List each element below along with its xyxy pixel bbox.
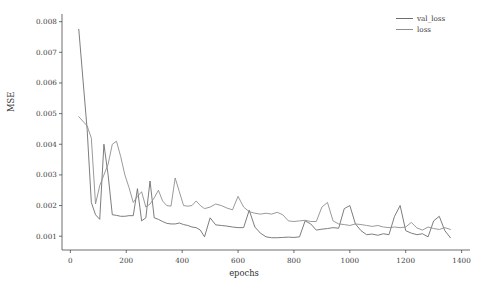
x-tick-label: 400 bbox=[162, 256, 202, 265]
x-axis-label: epochs bbox=[0, 268, 488, 278]
y-tick-label: 0.005 bbox=[10, 109, 57, 118]
legend-item-val-loss[interactable]: val_loss bbox=[396, 13, 486, 24]
legend-swatch-loss bbox=[396, 29, 413, 30]
x-tick-label: 600 bbox=[218, 256, 258, 265]
y-tick-label: 0.007 bbox=[10, 48, 57, 57]
x-tick-label: 1400 bbox=[442, 256, 482, 265]
y-tick-label: 0.006 bbox=[10, 78, 57, 87]
legend-item-loss[interactable]: loss bbox=[396, 24, 486, 35]
x-tick-label: 1000 bbox=[330, 256, 370, 265]
legend-swatch-val-loss bbox=[396, 18, 413, 19]
y-tick-label: 0.002 bbox=[10, 201, 57, 210]
x-tick-label: 1200 bbox=[386, 256, 426, 265]
legend-label-loss: loss bbox=[417, 25, 431, 34]
figure-background bbox=[0, 0, 488, 298]
x-tick-label: 200 bbox=[106, 256, 146, 265]
chart-figure: 0.0010.0020.0030.0040.0050.0060.0070.008… bbox=[0, 0, 488, 298]
y-tick-label: 0.003 bbox=[10, 170, 57, 179]
x-tick-label: 0 bbox=[50, 256, 90, 265]
x-tick-label: 800 bbox=[274, 256, 314, 265]
y-tick-label: 0.004 bbox=[10, 140, 57, 149]
y-tick-label: 0.008 bbox=[10, 17, 57, 26]
legend-label-val-loss: val_loss bbox=[417, 14, 445, 23]
plot-canvas bbox=[0, 0, 488, 298]
chart-legend: val_loss loss bbox=[396, 13, 486, 35]
y-axis-label: MSE bbox=[6, 92, 16, 112]
y-tick-label: 0.001 bbox=[10, 232, 57, 241]
